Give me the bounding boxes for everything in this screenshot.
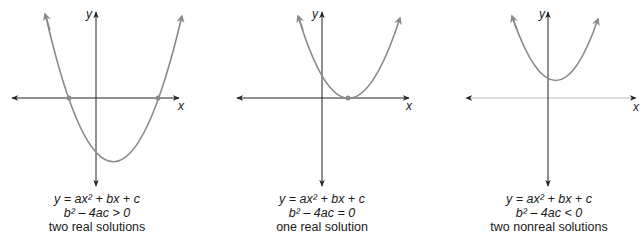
x-axis-label: x — [177, 99, 185, 113]
parabola-curve — [46, 16, 182, 162]
parabola-curve-left-arrow — [298, 16, 303, 30]
caption-two-nonreal-solutions: y = ax² + bx + c b² – 4ac < 0 two nonrea… — [464, 192, 634, 234]
description: one real solution — [237, 220, 407, 234]
discriminant: b² – 4ac > 0 — [12, 206, 182, 220]
equation: y = ax² + bx + c — [237, 192, 407, 206]
y-axis-label: y — [311, 7, 319, 21]
root-point-right — [156, 96, 161, 101]
description: two nonreal solutions — [464, 220, 634, 234]
equation: y = ax² + bx + c — [12, 192, 182, 206]
root-point-left — [67, 96, 72, 101]
description: two real solutions — [12, 220, 182, 234]
y-axis-label: y — [538, 7, 546, 21]
caption-two-real-solutions: y = ax² + bx + c b² – 4ac > 0 two real s… — [12, 192, 182, 234]
graph-two-nonreal-solutions: x y — [466, 7, 640, 186]
parabola-curve-left-arrow — [512, 16, 517, 30]
y-axis-label: y — [85, 7, 93, 21]
equation: y = ax² + bx + c — [464, 192, 634, 206]
discriminant: b² – 4ac = 0 — [237, 206, 407, 220]
parabola-curve-left-arrow — [45, 14, 50, 30]
parabola-curve — [299, 18, 400, 98]
parabola-curve — [513, 19, 598, 81]
graph-one-real-solution: x y — [237, 7, 413, 186]
vertex-point — [346, 96, 351, 101]
x-axis-label: x — [405, 99, 413, 113]
x-axis-label: x — [632, 100, 640, 114]
discriminant: b² – 4ac < 0 — [464, 206, 634, 220]
caption-one-real-solution: y = ax² + bx + c b² – 4ac = 0 one real s… — [237, 192, 407, 234]
graph-two-real-solutions: x y — [12, 7, 185, 186]
